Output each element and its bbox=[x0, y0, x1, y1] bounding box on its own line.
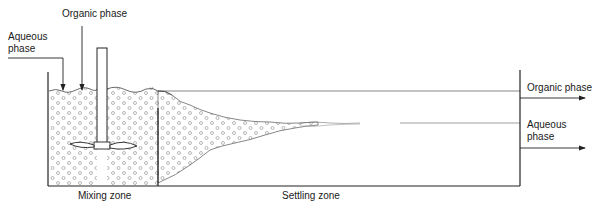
label-aqueous-inlet-1: Aqueous bbox=[8, 31, 47, 43]
mixing-emulsion-right bbox=[107, 86, 158, 186]
label-mixing-zone: Mixing zone bbox=[78, 190, 131, 202]
label-settling-zone: Settling zone bbox=[282, 190, 340, 202]
aqueous-inlet-arrow bbox=[8, 58, 63, 90]
label-aqueous-inlet-2: phase bbox=[8, 43, 35, 55]
dispersion-band bbox=[158, 91, 318, 183]
label-organic-inlet: Organic phase bbox=[62, 8, 127, 20]
mixing-emulsion bbox=[49, 88, 97, 186]
label-aqueous-outlet-1: Aqueous bbox=[527, 119, 566, 131]
impeller-hub bbox=[94, 142, 110, 149]
label-aqueous-outlet-2: phase bbox=[527, 131, 554, 143]
mixer-settler-diagram bbox=[0, 0, 596, 207]
label-organic-outlet: Organic phase bbox=[527, 82, 592, 94]
stirrer-shaft bbox=[97, 48, 107, 145]
